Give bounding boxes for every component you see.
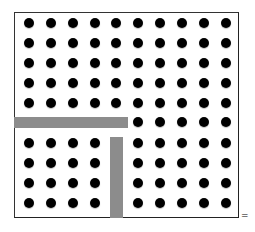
dot bbox=[68, 178, 78, 188]
dot bbox=[199, 158, 209, 168]
dot bbox=[221, 158, 231, 168]
dot bbox=[199, 18, 209, 28]
dot bbox=[68, 158, 78, 168]
dot bbox=[46, 198, 56, 208]
dot bbox=[199, 138, 209, 148]
dot bbox=[24, 138, 34, 148]
dot bbox=[133, 78, 143, 88]
dot bbox=[46, 138, 56, 148]
dot bbox=[199, 58, 209, 68]
dot bbox=[24, 198, 34, 208]
dot bbox=[221, 138, 231, 148]
dot bbox=[133, 98, 143, 108]
dot bbox=[90, 38, 100, 48]
dot bbox=[133, 138, 143, 148]
dot bbox=[199, 117, 209, 127]
dot bbox=[90, 178, 100, 188]
dot bbox=[90, 98, 100, 108]
dot bbox=[46, 158, 56, 168]
dot bbox=[46, 98, 56, 108]
dot bbox=[68, 38, 78, 48]
dot bbox=[24, 78, 34, 88]
dot bbox=[90, 138, 100, 148]
dot bbox=[46, 18, 56, 28]
dot bbox=[68, 138, 78, 148]
dot bbox=[177, 117, 187, 127]
dot bbox=[24, 98, 34, 108]
dot bbox=[155, 138, 165, 148]
dot bbox=[111, 18, 121, 28]
dot bbox=[199, 198, 209, 208]
equals-sign: = bbox=[241, 211, 249, 220]
dot bbox=[133, 158, 143, 168]
dot bbox=[133, 18, 143, 28]
dot bbox=[177, 178, 187, 188]
dot bbox=[177, 98, 187, 108]
dot bbox=[155, 38, 165, 48]
dot bbox=[24, 58, 34, 68]
dot bbox=[46, 38, 56, 48]
dot bbox=[177, 78, 187, 88]
dot bbox=[46, 58, 56, 68]
dot bbox=[111, 58, 121, 68]
dot bbox=[221, 78, 231, 88]
dot bbox=[155, 198, 165, 208]
dot bbox=[155, 18, 165, 28]
dot bbox=[133, 38, 143, 48]
dot bbox=[199, 38, 209, 48]
dot bbox=[177, 58, 187, 68]
dot bbox=[177, 38, 187, 48]
dot bbox=[90, 158, 100, 168]
dot bbox=[24, 18, 34, 28]
dot bbox=[133, 178, 143, 188]
dot bbox=[221, 198, 231, 208]
dot bbox=[199, 98, 209, 108]
dot bbox=[46, 78, 56, 88]
dot bbox=[221, 58, 231, 68]
dot bbox=[155, 117, 165, 127]
dot bbox=[155, 158, 165, 168]
dot bbox=[90, 78, 100, 88]
dot bbox=[221, 117, 231, 127]
dot bbox=[133, 58, 143, 68]
dot bbox=[155, 178, 165, 188]
dot bbox=[90, 58, 100, 68]
dot bbox=[177, 18, 187, 28]
dot bbox=[133, 117, 143, 127]
dot bbox=[111, 38, 121, 48]
dot bbox=[111, 98, 121, 108]
dot bbox=[24, 38, 34, 48]
dot bbox=[199, 178, 209, 188]
dot bbox=[221, 98, 231, 108]
dot bbox=[111, 78, 121, 88]
dot bbox=[90, 18, 100, 28]
dot bbox=[24, 158, 34, 168]
dot bbox=[68, 18, 78, 28]
dot bbox=[155, 58, 165, 68]
dot bbox=[90, 198, 100, 208]
horizontal-divider-bar bbox=[14, 117, 128, 128]
dot bbox=[68, 198, 78, 208]
dot bbox=[177, 138, 187, 148]
dot bbox=[133, 198, 143, 208]
dot bbox=[199, 78, 209, 88]
dot bbox=[46, 178, 56, 188]
dot bbox=[24, 178, 34, 188]
dot bbox=[221, 38, 231, 48]
dot bbox=[68, 78, 78, 88]
dot bbox=[155, 98, 165, 108]
vertical-divider-bar bbox=[110, 137, 123, 218]
dot bbox=[155, 78, 165, 88]
dot bbox=[177, 198, 187, 208]
dot bbox=[68, 58, 78, 68]
dot bbox=[177, 158, 187, 168]
dot bbox=[221, 18, 231, 28]
dot bbox=[68, 98, 78, 108]
dot bbox=[221, 178, 231, 188]
